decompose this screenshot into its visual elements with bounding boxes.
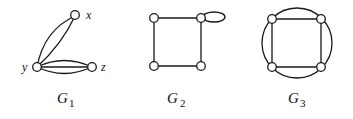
- vertex-z: [88, 63, 97, 72]
- vertex-b: [317, 15, 326, 24]
- graph-label-g3: G: [288, 90, 299, 106]
- vertex-label-z: z: [100, 60, 106, 74]
- edge-y-z-1: [37, 61, 92, 68]
- vertex-label-y: y: [21, 60, 28, 74]
- vertex-c: [268, 63, 277, 72]
- graph-g2: G 2: [150, 12, 225, 109]
- vertex-label-x: x: [85, 8, 92, 22]
- edge-square: [272, 19, 321, 67]
- edge-y-z-3: [37, 67, 92, 74]
- vertex-y: [33, 63, 42, 72]
- graph-subscript-g3: 3: [300, 97, 306, 109]
- edge-square: [154, 18, 201, 66]
- edge-y-x-1: [37, 16, 75, 67]
- vertex-a: [150, 14, 159, 23]
- graph-label-g1: G: [57, 90, 68, 106]
- graph-subscript-g1: 1: [69, 97, 75, 109]
- graph-label-g2: G: [167, 90, 178, 106]
- edge-loop: [203, 12, 225, 22]
- vertex-x: [71, 11, 80, 20]
- graph-subscript-g2: 2: [180, 97, 186, 109]
- vertex-c: [150, 62, 159, 71]
- vertex-b: [197, 14, 206, 23]
- graph-g3: G 3: [262, 8, 332, 109]
- vertex-d: [317, 63, 326, 72]
- edge-y-x-2: [37, 16, 75, 67]
- vertex-a: [268, 15, 277, 24]
- vertex-d: [197, 62, 206, 71]
- graph-figure: x y z G 1 G 2 G 3: [0, 0, 353, 119]
- graph-g1: x y z G 1: [21, 8, 106, 109]
